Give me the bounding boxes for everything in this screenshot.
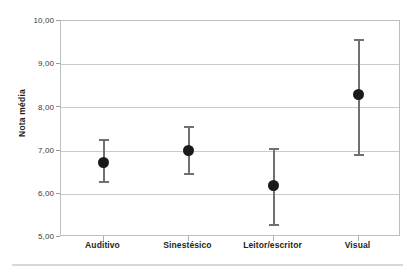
x-category-label: Visual — [345, 240, 371, 250]
error-bar-cap-lower — [184, 173, 194, 175]
error-bar-cap-lower — [269, 224, 279, 226]
x-category-label: Leitor/escritor — [243, 240, 302, 250]
y-tick-label: 10,00 — [18, 16, 54, 25]
gridline — [61, 194, 399, 195]
y-tick-label: 5,00 — [18, 232, 54, 241]
y-tick-label: 8,00 — [18, 103, 54, 112]
data-point-marker[interactable] — [353, 89, 364, 100]
error-bar-chart: Nota média 10,00 9,00 8,00 7,00 6,00 5,0… — [0, 0, 415, 272]
y-axis-tick-labels: 10,00 9,00 8,00 7,00 6,00 5,00 — [16, 0, 54, 272]
y-tick-label: 7,00 — [18, 146, 54, 155]
x-axis-category-labels: AuditivoSinestésicoLeitor/escritorVisual — [60, 240, 400, 256]
y-tick-label: 6,00 — [18, 189, 54, 198]
data-point-marker[interactable] — [268, 180, 279, 191]
data-point-marker[interactable] — [98, 157, 109, 168]
x-category-label: Sinestésico — [163, 240, 211, 250]
x-category-label: Auditivo — [85, 240, 120, 250]
error-bar-cap-upper — [99, 139, 109, 141]
error-bar-cap-lower — [354, 154, 364, 156]
gridline — [61, 107, 399, 108]
error-bar-cap-upper — [184, 126, 194, 128]
y-tick-label: 9,00 — [18, 59, 54, 68]
bottom-divider-rule — [12, 264, 403, 266]
error-bar-cap-upper — [269, 148, 279, 150]
gridline — [61, 64, 399, 65]
error-bar-cap-lower — [99, 181, 109, 183]
data-point-marker[interactable] — [183, 145, 194, 156]
error-bar-cap-upper — [354, 39, 364, 41]
gridline — [61, 151, 399, 152]
plot-area — [60, 20, 400, 236]
